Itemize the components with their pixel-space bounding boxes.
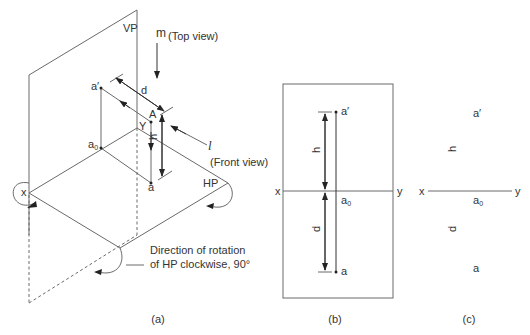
h-label: h bbox=[446, 146, 458, 152]
front-view-label: (Front view) bbox=[210, 156, 268, 168]
h-label: h bbox=[310, 147, 322, 153]
m-label: m bbox=[156, 26, 166, 40]
vertical-plane bbox=[29, 10, 137, 235]
projector-lines bbox=[101, 88, 151, 183]
Y-label: Y bbox=[139, 120, 147, 132]
point-a-prime bbox=[335, 111, 338, 114]
d-label: d bbox=[446, 226, 458, 232]
d-label: d bbox=[310, 226, 322, 232]
point-A bbox=[150, 121, 153, 124]
a-label: a bbox=[341, 265, 348, 277]
y-label: y bbox=[397, 185, 403, 197]
l-label: l bbox=[208, 138, 212, 153]
point-a bbox=[335, 271, 338, 274]
point-a-prime bbox=[100, 87, 103, 90]
point-a0 bbox=[100, 147, 103, 150]
y-label: y bbox=[515, 185, 521, 197]
caption-c: (c) bbox=[463, 313, 476, 325]
caption-b: (b) bbox=[328, 313, 341, 325]
a0-label: a0 bbox=[473, 194, 483, 207]
front-view-arrow bbox=[171, 126, 186, 134]
a-prime-label: a′ bbox=[341, 105, 349, 117]
hp-label: HP bbox=[203, 177, 218, 189]
top-view-label: (Top view) bbox=[168, 30, 218, 42]
A-label: A bbox=[149, 108, 157, 120]
projection-diagram: VP m (Top view) a′ d A Y h l (Front view… bbox=[0, 0, 530, 335]
vp-label: VP bbox=[123, 22, 138, 34]
d-label: d bbox=[141, 84, 147, 96]
a-label: a bbox=[473, 262, 480, 274]
horizontal-plane bbox=[29, 128, 228, 248]
a-label: a bbox=[148, 181, 155, 193]
panel-c-final-projection: x y a′ a0 a h d (c) bbox=[419, 107, 521, 325]
hidden-lines bbox=[29, 128, 137, 303]
rotation-note-line2: of HP clockwise, 90° bbox=[150, 258, 250, 270]
a-prime-label: a′ bbox=[91, 80, 99, 92]
a0-label: a0 bbox=[341, 194, 351, 207]
x-label: x bbox=[419, 185, 425, 197]
x-label: x bbox=[275, 185, 281, 197]
panel-a-pictorial: VP m (Top view) a′ d A Y h l (Front view… bbox=[13, 10, 268, 325]
panel-b-unfolded-planes: x y a′ a0 a h d (b) bbox=[275, 84, 403, 325]
a-prime-label: a′ bbox=[473, 107, 481, 119]
x-label: x bbox=[21, 186, 27, 198]
rotation-note-line1: Direction of rotation bbox=[150, 244, 245, 256]
a0-label: a0 bbox=[88, 138, 98, 151]
h-label: h bbox=[147, 134, 159, 140]
caption-a: (a) bbox=[151, 313, 164, 325]
